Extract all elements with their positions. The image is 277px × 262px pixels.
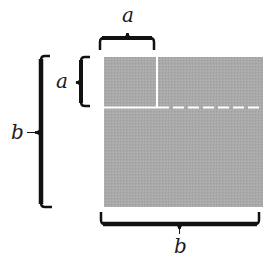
large-square (104, 57, 263, 207)
top-brace-a (100, 33, 154, 50)
label-left-a: a (56, 69, 68, 93)
label-left-b: b (11, 120, 24, 144)
diagram-canvas: a a b b (0, 0, 277, 262)
left-brace-b (35, 56, 52, 207)
label-top-a: a (122, 3, 134, 27)
bottom-brace-b (101, 212, 259, 229)
label-bottom-b: b (174, 234, 187, 258)
square-diagram: a a b b (0, 0, 277, 262)
